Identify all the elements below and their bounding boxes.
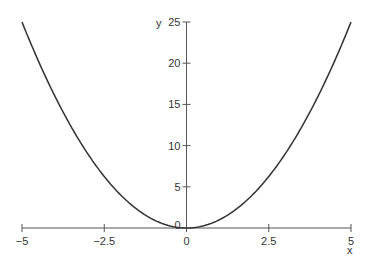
y-tick-label: 25: [168, 16, 180, 28]
y-tick-label: 10: [168, 140, 180, 152]
y-tick-label: 0: [174, 219, 180, 231]
y-axis-ticks: 0510152025: [168, 16, 190, 231]
x-axis-label: x: [347, 244, 353, 256]
y-axis-label: y: [156, 17, 162, 29]
y-tick-label: 5: [174, 181, 180, 193]
y-tick-label: 15: [168, 98, 180, 110]
function-plot: −5−2.502.55 0510152025 x y: [0, 0, 373, 265]
y-tick-label: 20: [168, 57, 180, 69]
x-tick-label: 2.5: [261, 235, 276, 247]
x-tick-label: −5: [16, 235, 29, 247]
x-tick-label: −2.5: [93, 235, 115, 247]
x-tick-label: 0: [183, 235, 189, 247]
axes: [22, 22, 351, 228]
